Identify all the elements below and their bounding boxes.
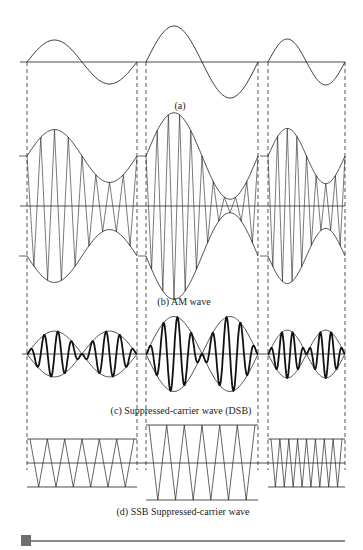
am-carrier: [268, 128, 345, 281]
ssb-carrier: [149, 425, 255, 500]
panel-a-modulating-signal: [20, 26, 345, 98]
am-envelope-lower: [27, 230, 137, 283]
dsb-envelope-lower: [146, 354, 258, 391]
caption-b-am-wave: (b) AM wave: [157, 296, 210, 307]
am-carrier: [146, 115, 258, 299]
panel-d-ssb-wave: [27, 425, 345, 500]
panel-c-dsb-wave: [22, 317, 345, 392]
am-envelope-lower: [268, 228, 345, 283]
dsb-carrier: [268, 332, 345, 378]
footer-marker-square: [21, 535, 31, 546]
am-carrier: [27, 130, 137, 281]
footer-rule: [31, 540, 345, 542]
caption-a: (a): [174, 100, 185, 111]
caption-c-dsb-wave: (c) Suppressed-carrier wave (DSB): [111, 405, 252, 416]
modulation-diagram: [0, 0, 363, 550]
panel-b-am-wave: [19, 113, 345, 299]
dsb-envelope-lower: [27, 354, 137, 377]
caption-d-ssb-wave: (d) SSB Suppressed-carrier wave: [116, 506, 249, 517]
